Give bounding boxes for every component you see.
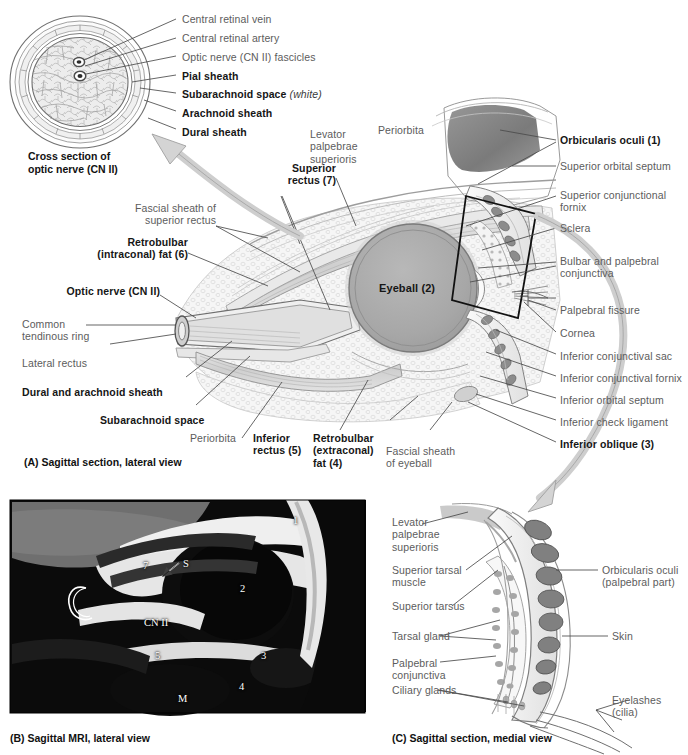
mri-label-s: S	[183, 558, 189, 569]
label-subarachnoid-space-white: Subarachnoid space (white)	[182, 88, 322, 100]
panel-a-caption: (A) Sagittal section, lateral view	[24, 456, 182, 468]
mri-label-cn-ii: CN II	[144, 617, 168, 628]
mri-label-2: 2	[240, 583, 245, 594]
label-inferior-conjunctival-fornix: Inferior conjunctival fornix	[560, 372, 682, 384]
mri-label-3: 3	[261, 650, 266, 661]
panel-b-caption: (B) Sagittal MRI, lateral view	[10, 732, 150, 744]
label-palpebral-conjunctiva: Palpebral conjunctiva	[392, 657, 446, 682]
label-tarsal-gland: Tarsal gland	[392, 630, 450, 642]
label-palpebral-fissure: Palpebral fissure	[560, 304, 640, 316]
label-orbicularis-oculi-c: Orbicularis oculi (palpebral part)	[602, 564, 678, 589]
label-common-tendinous-ring: Common tendinous ring	[22, 318, 89, 343]
label-superior-orbital-septum: Superior orbital septum	[560, 160, 671, 172]
label-skin: Skin	[612, 630, 633, 642]
cross-section-title-line2: optic nerve (CN II)	[28, 163, 118, 175]
label-levator-palpebrae-c: Levator palpebrae superioris	[392, 516, 440, 553]
label-optic-nerve-cnii: Optic nerve (CN II)	[18, 285, 160, 297]
label-inferior-orbital-septum: Inferior orbital septum	[560, 394, 664, 406]
label-superior-tarsal-muscle: Superior tarsal muscle	[392, 564, 462, 589]
label-subarachnoid-space-a: Subarachnoid space	[100, 414, 205, 426]
cross-section-title-line1: Cross section of	[28, 150, 110, 162]
panel-b-mri-art	[10, 500, 366, 716]
label-lateral-rectus: Lateral rectus	[22, 357, 87, 369]
label-retrobulbar-extraconal-fat: Retrobulbar (extraconal) fat (4)	[313, 432, 374, 469]
label-periorbita-top: Periorbita	[378, 124, 424, 136]
label-inferior-oblique: Inferior oblique (3)	[560, 438, 654, 450]
label-retrobulbar-intraconal-fat: Retrobulbar (intraconal) fat (6)	[72, 236, 188, 261]
label-levator-palpebrae-a: Levator palpebrae superioris	[310, 128, 358, 165]
mri-label-1: 1	[293, 515, 298, 526]
label-ciliary-glands: Ciliary glands	[392, 684, 456, 696]
mri-label-7: 7	[143, 560, 148, 571]
panel-c-caption: (C) Sagittal section, medial view	[392, 732, 552, 744]
label-dural-arachnoid-sheath: Dural and arachnoid sheath	[22, 386, 163, 398]
label-fascial-sheath-of-eyeball: Fascial sheath of eyeball	[386, 445, 455, 470]
label-subarachnoid-space-suffix: (white)	[290, 88, 322, 100]
label-inferior-rectus: Inferior rectus (5)	[253, 432, 301, 457]
label-orbicularis-oculi-a: Orbicularis oculi (1)	[560, 134, 661, 146]
label-central-retinal-vein: Central retinal vein	[182, 13, 272, 25]
label-eyelashes: Eyelashes (cilia)	[612, 694, 661, 719]
label-superior-tarsus: Superior tarsus	[392, 600, 465, 612]
label-superior-rectus: Superior rectus (7)	[238, 162, 336, 187]
label-superior-conjunctional-fornix: Superior conjunctional fornix	[560, 189, 666, 214]
label-subarachnoid-space-main: Subarachnoid space	[182, 88, 287, 100]
mri-label-m: M	[178, 693, 187, 704]
optic-nerve-cross-section-art	[10, 16, 176, 148]
label-optic-nerve-fascicles: Optic nerve (CN II) fascicles	[182, 51, 316, 63]
label-sclera: Sclera	[560, 222, 590, 234]
label-arachnoid-sheath: Arachnoid sheath	[182, 107, 272, 119]
label-inferior-check-ligament: Inferior check ligament	[560, 416, 668, 428]
label-cornea: Cornea	[560, 327, 595, 339]
label-dural-sheath: Dural sheath	[182, 126, 247, 138]
label-central-retinal-artery: Central retinal artery	[182, 32, 279, 44]
panel-c-art	[422, 503, 632, 754]
label-periorbita-bottom: Periorbita	[190, 432, 236, 444]
mri-label-4: 4	[239, 681, 244, 692]
mri-label-c: C	[62, 578, 75, 601]
label-bulbar-palpebral-conjunctiva: Bulbar and palpebral conjunctiva	[560, 255, 659, 280]
label-eyeball: Eyeball (2)	[379, 282, 435, 294]
mri-label-5: 5	[155, 650, 160, 661]
label-inferior-conjunctival-sac: Inferior conjunctival sac	[560, 350, 672, 362]
label-pial-sheath: Pial sheath	[182, 70, 239, 82]
label-fascial-sheath-superior-rectus: Fascial sheath of superior rectus	[120, 202, 216, 227]
